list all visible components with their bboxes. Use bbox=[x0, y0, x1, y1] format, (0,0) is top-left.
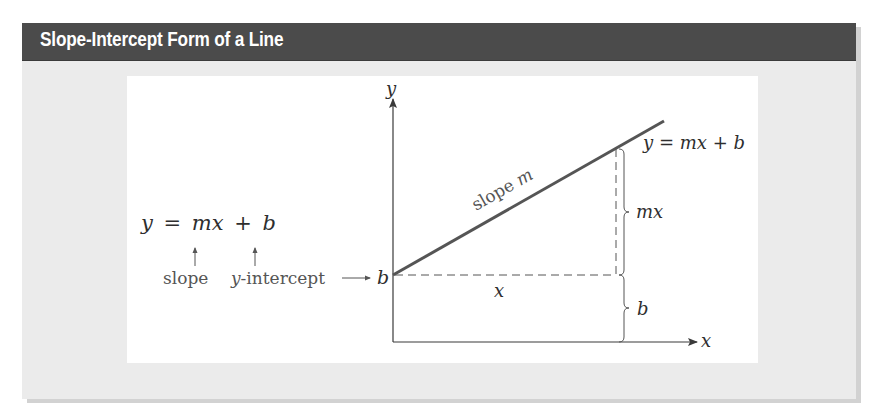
formula-block: y = mx + b slope y-intercept b bbox=[140, 211, 389, 288]
run-x-label: x bbox=[494, 280, 504, 301]
slope-label: slope bbox=[163, 268, 208, 288]
brace-mx bbox=[619, 149, 629, 275]
rise-mx-label: mx bbox=[636, 201, 663, 222]
intercept-label: y-intercept bbox=[230, 268, 325, 288]
formula-text: y = mx + b bbox=[140, 211, 276, 235]
point-equation-label: y = mx + b bbox=[642, 132, 745, 153]
slope-intercept-diagram: y = mx + b slope y-intercept b y x slope… bbox=[0, 0, 881, 419]
brace-b-label: b bbox=[637, 298, 649, 319]
line-y-mx-b bbox=[393, 121, 664, 275]
y-axis-label: y bbox=[385, 78, 397, 99]
x-axis-label: x bbox=[701, 330, 711, 351]
slope-m-label: slope m bbox=[468, 164, 536, 214]
brace-b bbox=[619, 275, 629, 342]
intercept-b-label: b bbox=[377, 266, 389, 288]
